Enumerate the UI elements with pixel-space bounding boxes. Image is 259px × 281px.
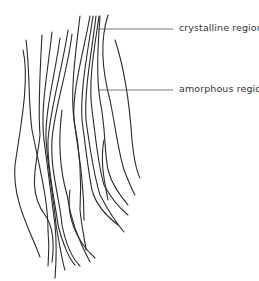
chain bbox=[34, 35, 53, 262]
chain bbox=[115, 40, 140, 178]
crystalline-region-label: crystalline region bbox=[179, 22, 259, 33]
chain bbox=[60, 110, 90, 262]
chain bbox=[43, 32, 56, 278]
chain bbox=[15, 50, 40, 257]
polymer-chains bbox=[15, 15, 140, 278]
fiber-diagram bbox=[0, 0, 259, 281]
amorphous-region-label: amorphous region bbox=[179, 83, 259, 94]
chain bbox=[86, 16, 124, 232]
chain bbox=[91, 16, 128, 215]
